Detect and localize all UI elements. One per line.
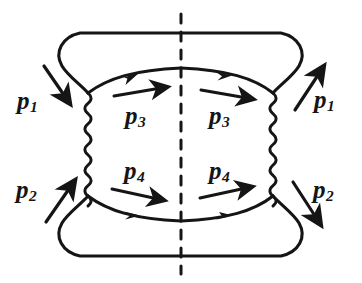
label-p2-outgoing: p2 bbox=[313, 177, 334, 204]
fermion-line-bottom-right-half bbox=[181, 196, 273, 221]
momentum-arrow-p3-right bbox=[201, 90, 247, 98]
fermion-line-bottom-left-half bbox=[88, 196, 181, 221]
label-p1-incoming: p1 bbox=[17, 88, 38, 115]
photon-propagator-right bbox=[270, 93, 276, 206]
photon-propagator-left bbox=[85, 93, 91, 206]
label-p4-right: p4 bbox=[209, 158, 230, 185]
fermion-line-top-left-half bbox=[88, 68, 181, 93]
label-p3-left: p3 bbox=[125, 103, 146, 130]
label-p1-outgoing: p1 bbox=[314, 87, 335, 114]
feynman-diagram-canvas bbox=[0, 0, 362, 283]
momentum-arrow-p3-left bbox=[114, 88, 161, 96]
label-p4-left: p4 bbox=[124, 158, 145, 185]
external-leg-p1-in bbox=[44, 66, 66, 98]
fermion-line-top-right-half bbox=[181, 68, 273, 93]
momentum-arrow-p4-left bbox=[112, 189, 158, 199]
label-p2-incoming: p2 bbox=[16, 177, 37, 204]
feynman-diagram-figure: p1 p1 p2 p2 p3 p3 p4 p4 bbox=[0, 0, 362, 283]
label-p3-right: p3 bbox=[209, 103, 230, 130]
momentum-arrow-p4-right bbox=[200, 188, 246, 198]
